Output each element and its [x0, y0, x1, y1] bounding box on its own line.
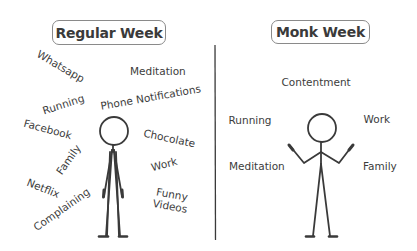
- regular-vs-monk-week-diagram: Regular Week Monk Week: [0, 0, 417, 251]
- stick-figure-regular: [99, 117, 128, 237]
- divider-line: [215, 45, 216, 240]
- activity-meditation: Meditation: [229, 161, 285, 173]
- activity-contentment: Contentment: [282, 77, 351, 89]
- activity-meditation: Meditation: [130, 66, 186, 78]
- activity-family: Family: [363, 161, 397, 173]
- stick-figure-monk: [289, 114, 353, 237]
- right-leg-monk: [321, 164, 330, 236]
- activity-work: Work: [364, 114, 391, 126]
- head-monk: [308, 114, 336, 142]
- left-arm-monk: [290, 146, 321, 163]
- left-leg-monk: [313, 164, 321, 236]
- head-regular: [100, 117, 128, 145]
- right-arm-monk: [321, 146, 352, 163]
- activity-running: Running: [229, 115, 272, 127]
